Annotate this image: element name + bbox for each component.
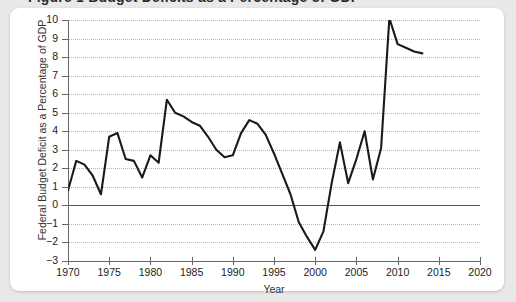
y-axis-tick-label: 10	[10, 13, 58, 25]
x-axis-tick	[150, 257, 151, 265]
y-axis-tick	[62, 76, 69, 77]
y-axis-tick-label: 7	[10, 69, 58, 81]
figure-title-text: Figure 1 Budget Deficits as a Percentage…	[28, 0, 360, 5]
data-series-line	[68, 20, 480, 261]
y-axis-tick	[62, 94, 69, 95]
x-axis-tick	[356, 257, 357, 265]
x-axis-title: Year	[68, 283, 480, 295]
y-axis-tick	[62, 39, 69, 40]
chart-card: Federal Budget Deficit as a Percentage o…	[10, 8, 504, 291]
y-axis-tick-label: 5	[10, 106, 58, 118]
x-axis-tick	[68, 257, 69, 265]
y-axis-tick-label: 9	[10, 32, 58, 44]
y-axis-tick	[62, 150, 69, 151]
y-axis-tick-label: −2	[10, 235, 58, 247]
y-axis-tick	[62, 224, 69, 225]
y-axis-tick	[62, 131, 69, 132]
y-axis-tick-label: 3	[10, 143, 58, 155]
y-axis-tick-label: 1	[10, 180, 58, 192]
y-axis-tick-label: −1	[10, 217, 58, 229]
y-axis-tick-label: 8	[10, 50, 58, 62]
x-axis-tick	[439, 257, 440, 265]
x-axis-tick-label: 2020	[450, 266, 510, 278]
y-axis-tick	[62, 20, 69, 21]
y-axis-tick-label: 2	[10, 161, 58, 173]
y-axis-tick	[62, 205, 69, 206]
x-axis-tick	[398, 257, 399, 265]
x-axis-tick	[192, 257, 193, 265]
x-axis-tick	[315, 257, 316, 265]
y-axis-tick-label: 4	[10, 124, 58, 136]
y-axis-tick	[62, 57, 69, 58]
y-axis-tick-label: 6	[10, 87, 58, 99]
deficit-line	[68, 20, 422, 250]
y-axis-tick	[62, 187, 69, 188]
x-axis-tick	[480, 257, 481, 265]
y-axis-tick-label: −3	[10, 254, 58, 266]
x-axis-tick	[233, 257, 234, 265]
y-axis-tick	[62, 168, 69, 169]
y-axis-tick-label: 0	[10, 198, 58, 210]
x-axis-tick	[274, 257, 275, 265]
y-axis-tick	[62, 242, 69, 243]
chart-page: Figure 1 Budget Deficits as a Percentage…	[0, 0, 516, 302]
x-axis-tick	[109, 257, 110, 265]
y-axis-tick	[62, 113, 69, 114]
